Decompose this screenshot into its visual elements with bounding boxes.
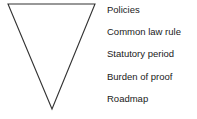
label-policies: Policies (107, 4, 140, 15)
inverted-triangle-diagram: Policies Common law rule Statutory perio… (0, 0, 197, 119)
inverted-triangle-shape (0, 0, 197, 119)
label-statutory-period: Statutory period (107, 48, 174, 59)
label-burden-of-proof: Burden of proof (107, 71, 173, 82)
label-common-law-rule: Common law rule (107, 26, 181, 37)
label-roadmap: Roadmap (107, 93, 148, 104)
